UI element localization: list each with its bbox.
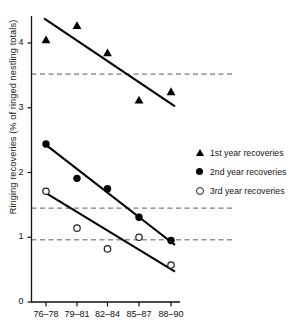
data-point [74, 225, 80, 231]
y-tick-label: 2 [10, 167, 24, 177]
legend-item-2nd-year[interactable]: 2nd year recoveries [196, 162, 286, 181]
legend: 1st year recoveries 2nd year recoveries … [196, 143, 286, 200]
x-tick-label: 82–84 [91, 309, 125, 319]
y-tick-label: 1 [10, 231, 24, 241]
data-point [167, 87, 176, 95]
x-tick-label: 85–87 [122, 309, 156, 319]
data-point [167, 237, 174, 244]
data-point [43, 188, 49, 194]
y-tick-label: 0 [10, 296, 24, 306]
chart-figure: Ringing recoveries (% of ringed nestling… [0, 0, 296, 331]
legend-item-1st-year[interactable]: 1st year recoveries [196, 143, 286, 162]
data-point [168, 262, 174, 268]
open-circle-icon [196, 187, 210, 195]
data-point [103, 49, 112, 57]
data-point [73, 21, 82, 29]
legend-item-3rd-year[interactable]: 3rd year recoveries [196, 181, 286, 200]
data-point [42, 36, 51, 44]
data-point [104, 246, 110, 252]
legend-item-label: 1st year recoveries [210, 148, 284, 158]
trendline-series-1 [44, 143, 175, 245]
legend-item-label: 3rd year recoveries [210, 186, 285, 196]
x-tick-label: 88–90 [154, 309, 188, 319]
data-point [73, 175, 80, 182]
y-tick-label: 3 [10, 102, 24, 112]
x-tick-label: 76–78 [29, 309, 63, 319]
data-point [136, 234, 142, 240]
data-point [104, 185, 111, 192]
x-tick-label: 79–81 [60, 309, 94, 319]
trendline-series-0 [44, 18, 175, 106]
data-point [42, 140, 49, 147]
data-point [135, 96, 144, 104]
data-point [135, 213, 142, 220]
filled-triangle-icon [196, 149, 210, 156]
trendline-series-2 [44, 192, 175, 272]
filled-circle-icon [196, 168, 210, 175]
legend-item-label: 2nd year recoveries [210, 167, 286, 177]
y-tick-label: 4 [10, 37, 24, 47]
